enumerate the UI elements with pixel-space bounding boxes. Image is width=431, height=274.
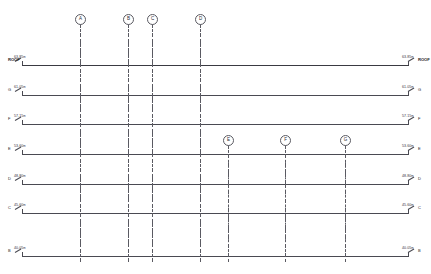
- grid-line-a: [80, 24, 81, 262]
- leader-tick: [22, 91, 23, 95]
- elevation-value-left: 48.80m: [14, 175, 26, 179]
- elevation-value-right: 48.80m: [402, 175, 414, 179]
- elevation-value-right: 45.60m: [402, 204, 414, 208]
- leader-tick: [22, 120, 23, 124]
- grid-line-b: [128, 24, 129, 262]
- level-tag-right: E: [418, 147, 421, 151]
- elevation-value-left: 40.05m: [14, 247, 26, 251]
- grid-bubble-c[interactable]: C: [147, 14, 158, 25]
- leader-tick: [22, 180, 23, 184]
- grid-bubble-label: G: [344, 138, 348, 143]
- grid-line-d: [200, 24, 201, 262]
- grid-line-f: [285, 145, 286, 262]
- drawing-sheet: 63.85mROOF63.85mROOF61.05mG61.05mG57.15m…: [0, 0, 431, 274]
- elevation-value-right: 53.60m: [402, 145, 414, 149]
- level-tag-right: B: [418, 249, 421, 253]
- grid-bubble-label: B: [127, 17, 130, 22]
- level-tag-right: ROOF: [418, 58, 430, 62]
- grid-line-c: [152, 24, 153, 262]
- grid-bubble-a[interactable]: A: [75, 14, 86, 25]
- level-tag-left: G: [8, 88, 11, 92]
- elevation-value-right: 57.15m: [402, 115, 414, 119]
- grid-line-e: [228, 145, 229, 262]
- grid-bubble-label: A: [79, 17, 82, 22]
- elevation-value-left: 61.05m: [14, 86, 26, 90]
- grid-bubble-label: C: [151, 17, 154, 22]
- elevation-value-right: 40.05m: [402, 247, 414, 251]
- grid-bubble-g[interactable]: G: [340, 135, 351, 146]
- level-tag-left: F: [8, 117, 10, 121]
- level-tag-left: B: [8, 249, 11, 253]
- level-tag-right: F: [418, 117, 420, 121]
- grid-bubble-d[interactable]: D: [195, 14, 206, 25]
- leader-tick: [22, 61, 23, 65]
- elevation-value-left: 53.60m: [14, 145, 26, 149]
- elevation-value-right: 61.05m: [402, 86, 414, 90]
- level-tag-right: G: [418, 88, 421, 92]
- elevation-value-right: 63.85m: [402, 56, 414, 60]
- elevation-value-left: 57.15m: [14, 115, 26, 119]
- elevation-value-left: 45.60m: [14, 204, 26, 208]
- level-tag-right: D: [418, 177, 421, 181]
- grid-bubble-f[interactable]: F: [280, 135, 291, 146]
- level-tag-right: C: [418, 206, 421, 210]
- grid-bubble-label: F: [284, 138, 287, 143]
- level-tag-left: ROOF: [8, 58, 20, 62]
- level-tag-left: E: [8, 147, 11, 151]
- leader-tick: [22, 252, 23, 256]
- grid-bubble-e[interactable]: E: [223, 135, 234, 146]
- level-tag-left: C: [8, 206, 11, 210]
- leader-tick: [22, 150, 23, 154]
- grid-line-g: [345, 145, 346, 262]
- grid-bubble-b[interactable]: B: [123, 14, 134, 25]
- level-tag-left: D: [8, 177, 11, 181]
- grid-bubble-label: E: [227, 138, 230, 143]
- grid-bubble-label: D: [199, 17, 202, 22]
- leader-tick: [22, 209, 23, 213]
